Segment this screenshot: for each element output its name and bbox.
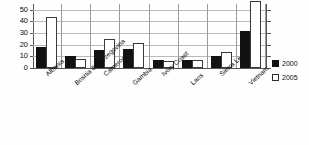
legend-swatch-2005 bbox=[272, 74, 279, 81]
bar-2005 bbox=[221, 52, 232, 68]
bar-group bbox=[62, 4, 91, 68]
bar-group bbox=[33, 4, 62, 68]
y-tick-mark bbox=[30, 68, 33, 69]
y-tick-label: 30 bbox=[8, 29, 28, 37]
legend-swatch-2000 bbox=[272, 60, 279, 67]
legend-label-2000: 2000 bbox=[282, 60, 298, 67]
bar-group bbox=[179, 4, 208, 68]
bar-group bbox=[120, 4, 149, 68]
bar-chart: 01020304050 AlbaniaBosnia & HerzegovinaC… bbox=[0, 0, 309, 145]
y-tick-label: 50 bbox=[8, 6, 28, 14]
y-tick-label: 20 bbox=[8, 41, 28, 49]
bar-2005 bbox=[133, 43, 144, 68]
bar-2005 bbox=[163, 61, 174, 68]
bar-2005 bbox=[250, 1, 261, 68]
bar-group bbox=[91, 4, 120, 68]
y-tick-label: 10 bbox=[8, 52, 28, 60]
x-category-label: Laos bbox=[189, 71, 204, 86]
legend-item-2000: 2000 bbox=[272, 58, 308, 69]
bar-2005 bbox=[46, 17, 57, 68]
bar-2005 bbox=[192, 60, 203, 68]
chart-legend: 2000 2005 bbox=[272, 58, 308, 86]
x-axis-line bbox=[33, 68, 266, 69]
bar-group bbox=[150, 4, 179, 68]
bar-group bbox=[208, 4, 237, 68]
y-tick-label: 40 bbox=[8, 17, 28, 25]
bar-group bbox=[237, 4, 266, 68]
plot-area bbox=[33, 4, 266, 68]
right-axis-ticks bbox=[266, 4, 271, 69]
bar-2005 bbox=[75, 59, 86, 68]
legend-item-2005: 2005 bbox=[272, 72, 308, 83]
bar-2005 bbox=[104, 39, 115, 68]
y-tick-label: 0 bbox=[8, 64, 28, 72]
legend-label-2005: 2005 bbox=[282, 74, 298, 81]
